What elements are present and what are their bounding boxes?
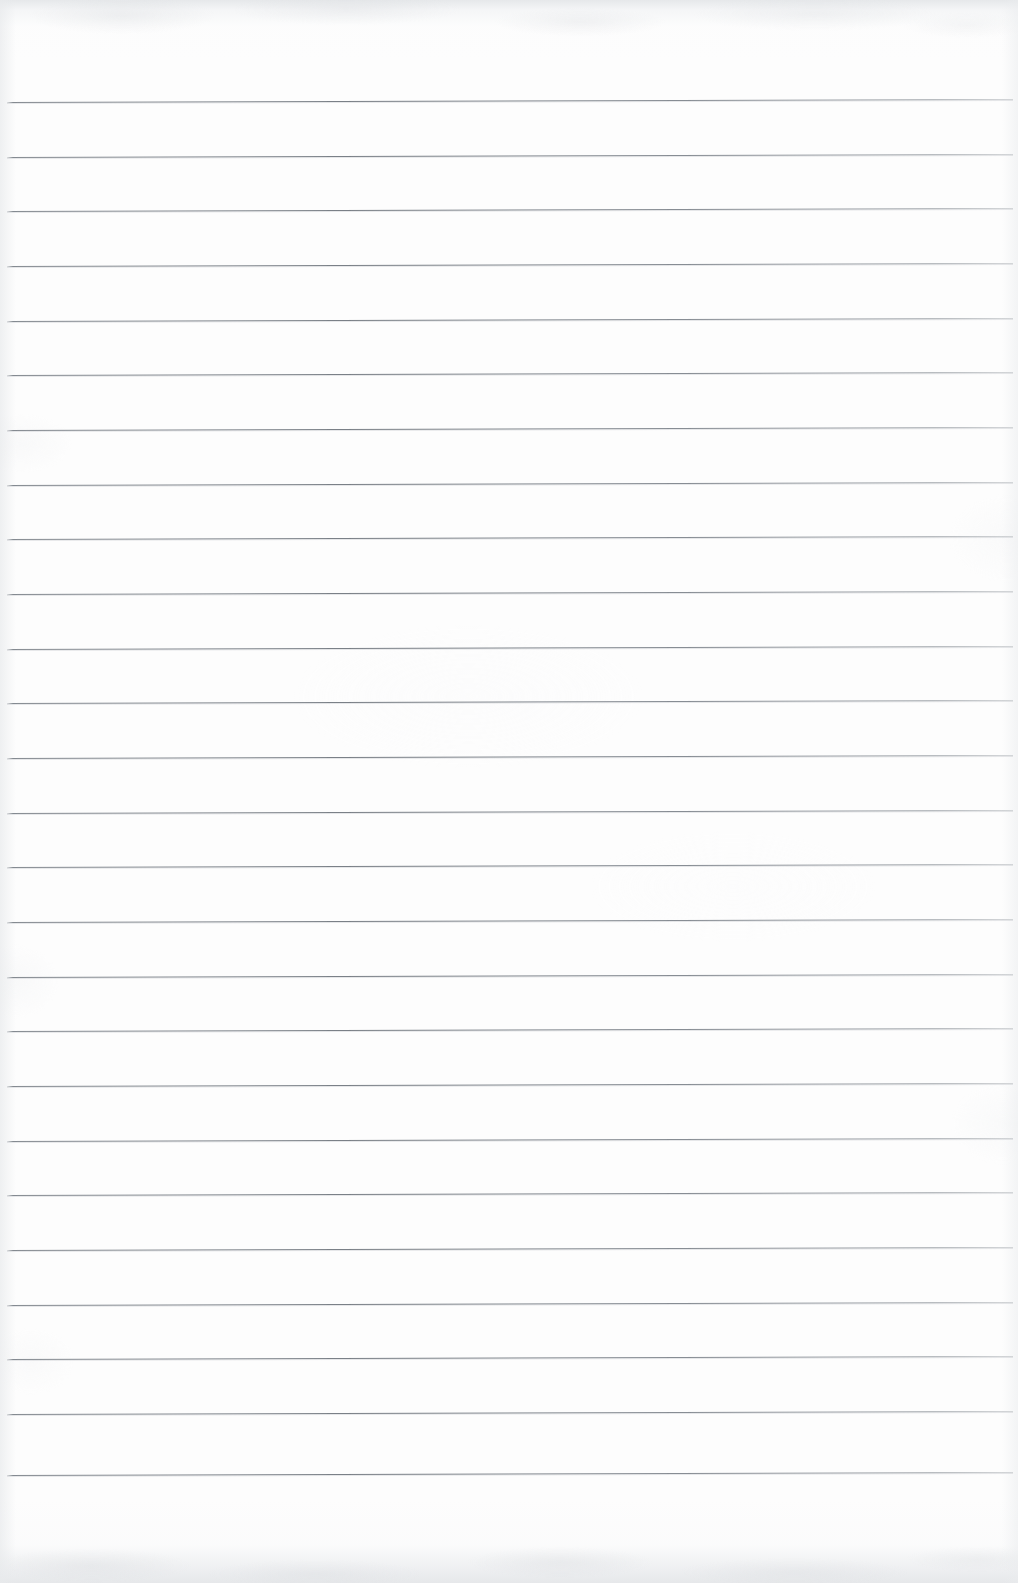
rule-line — [7, 482, 1013, 486]
rule-line — [7, 372, 1013, 376]
rule-line — [7, 1028, 1013, 1032]
rule-line — [7, 1302, 1013, 1306]
rule-line — [7, 646, 1013, 650]
rule-line — [7, 1411, 1013, 1415]
rule-line — [7, 263, 1013, 267]
rule-line — [7, 1083, 1013, 1087]
rule-line — [7, 1472, 1013, 1476]
rule-line — [7, 1247, 1013, 1251]
rule-line — [7, 208, 1013, 212]
ruled-line-group — [0, 0, 1018, 1583]
rule-line — [7, 427, 1013, 431]
rule-line — [7, 318, 1013, 322]
rule-line — [7, 919, 1013, 923]
rule-line — [7, 536, 1013, 540]
rule-line — [7, 810, 1013, 814]
rule-line — [7, 154, 1013, 158]
rule-line — [7, 864, 1013, 868]
rule-line — [7, 755, 1013, 759]
rule-line — [7, 591, 1013, 595]
rule-line — [7, 1192, 1013, 1196]
scanned-page — [0, 0, 1018, 1583]
rule-line — [7, 700, 1013, 704]
rule-line — [7, 99, 1013, 103]
rule-line — [7, 974, 1013, 978]
rule-line — [7, 1356, 1013, 1360]
rule-line — [7, 1138, 1013, 1142]
